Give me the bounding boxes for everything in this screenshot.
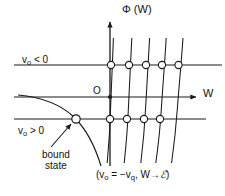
branch-4 <box>156 38 166 163</box>
bound-state-label-line2: state <box>42 161 70 172</box>
marker-lower-2 <box>123 115 130 122</box>
branch-5 <box>172 38 183 163</box>
caption-close: ) <box>166 169 169 180</box>
label-v-positive-sub: o <box>23 129 27 138</box>
marker-upper-4 <box>158 61 165 68</box>
marker-lower-4 <box>156 115 163 122</box>
label-v-negative-rel: < 0 <box>34 54 48 65</box>
bound-state-marker <box>72 115 80 123</box>
label-v-negative-sub: o <box>27 58 31 67</box>
bound-state-label-line1: bound <box>42 150 70 161</box>
phi-w-graph <box>0 0 225 196</box>
asymptote-branches <box>107 38 183 163</box>
x-axis-label: W <box>203 88 213 100</box>
marker-upper-5 <box>175 61 182 68</box>
label-v-negative: vo < 0 <box>22 55 48 67</box>
label-v-positive-rel: > 0 <box>30 125 44 136</box>
label-v-positive: vo > 0 <box>18 126 44 138</box>
marker-lower-1 <box>106 115 113 122</box>
marker-upper-1 <box>107 61 114 68</box>
figure-caption: (vo = −vq, W→ℰ) <box>96 170 169 182</box>
bound-state-label: bound state <box>42 150 70 171</box>
branch-3 <box>141 38 150 163</box>
y-axis-label: Φ (W) <box>122 4 152 16</box>
origin-label: O <box>93 86 101 97</box>
figure-root: Φ (W) W O vo < 0 vo > 0 bound state (vo … <box>0 0 225 196</box>
branch-2 <box>124 38 132 163</box>
caption-mid: , W→ <box>135 169 160 180</box>
marker-upper-2 <box>125 61 132 68</box>
caption-eq: = −v <box>109 169 131 180</box>
marker-upper-3 <box>142 61 149 68</box>
marker-lower-3 <box>140 115 147 122</box>
bound-state-pointer-arrow <box>51 124 71 147</box>
